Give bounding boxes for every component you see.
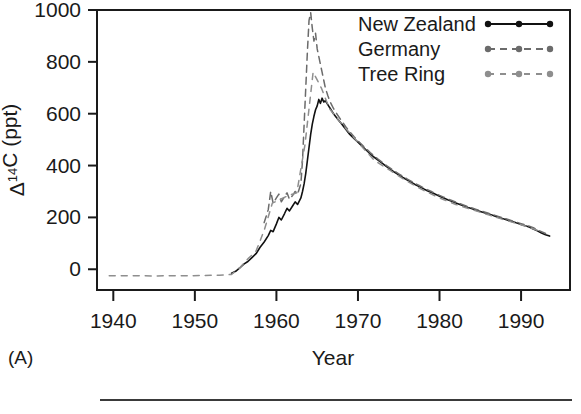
- x-tick-label: 1960: [253, 309, 300, 332]
- x-tick-label: 1970: [335, 309, 382, 332]
- legend-point-marker: [485, 71, 491, 77]
- legend-point-marker: [485, 46, 491, 52]
- legend-point-marker: [547, 21, 553, 27]
- chart-background: [0, 0, 581, 414]
- legend-point-marker: [516, 46, 522, 52]
- y-tick-label: 1000: [34, 0, 81, 21]
- legend-label-new-zealand: New Zealand: [358, 13, 476, 35]
- legend-point-marker: [547, 71, 553, 77]
- panel-label: (A): [8, 347, 33, 368]
- x-tick-label: 1980: [416, 309, 463, 332]
- legend-label-tree-ring: Tree Ring: [358, 63, 445, 85]
- figure-panel-a: 02004006008001000 1940195019601970198019…: [0, 0, 581, 414]
- radiocarbon-bomb-curve-chart: 02004006008001000 1940195019601970198019…: [0, 0, 581, 414]
- legend-point-marker: [516, 71, 522, 77]
- legend-point-marker: [547, 46, 553, 52]
- y-tick-label: 600: [46, 102, 81, 125]
- y-tick-label: 0: [69, 257, 81, 280]
- legend-point-marker: [485, 21, 491, 27]
- y-tick-label: 200: [46, 205, 81, 228]
- legend-point-marker: [516, 21, 522, 27]
- y-tick-label: 800: [46, 50, 81, 73]
- y-tick-label: 400: [46, 154, 81, 177]
- x-tick-label: 1950: [172, 309, 219, 332]
- x-axis-title: Year: [312, 346, 354, 369]
- x-tick-label: 1940: [90, 309, 137, 332]
- legend-label-germany: Germany: [358, 38, 440, 60]
- x-tick-label: 1990: [498, 309, 545, 332]
